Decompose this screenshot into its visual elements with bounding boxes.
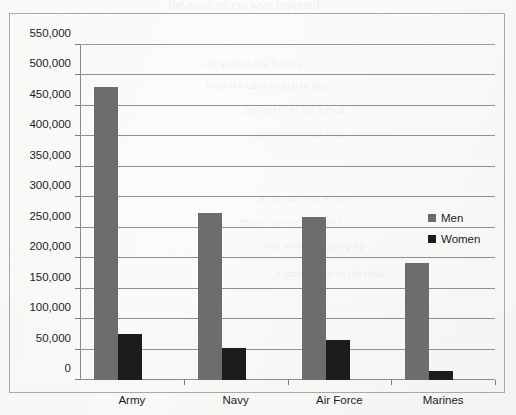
legend-item-men[interactable]: Men (428, 207, 480, 228)
y-axis-tick-label: 250,000 (29, 210, 71, 222)
bar-group (302, 45, 350, 380)
y-axis-tick-label: 350,000 (29, 149, 71, 161)
bar-navy-women (222, 348, 246, 380)
y-axis-tick-label: 0 (65, 362, 71, 374)
chart-legend: MenWomen (428, 207, 480, 249)
bar-marines-women (429, 371, 453, 380)
scanned-page: the most recent year reported to be seen… (0, 0, 516, 415)
x-axis-label-marines: Marines (423, 394, 464, 406)
x-axis-tick (184, 380, 185, 385)
legend-swatch-icon (428, 214, 436, 222)
y-axis-tick-label: 150,000 (29, 271, 71, 283)
bar-navy-men (198, 213, 222, 381)
y-axis-tick-label: 50,000 (36, 332, 71, 344)
x-axis-label-navy: Navy (223, 394, 249, 406)
bar-air-force-men (302, 217, 326, 380)
y-axis-tick-label: 550,000 (29, 27, 71, 39)
bar-army-women (118, 334, 142, 380)
bar-air-force-women (326, 340, 350, 380)
x-axis-tick (288, 380, 289, 385)
legend-label: Men (441, 212, 463, 224)
x-axis-tick (495, 380, 496, 385)
y-axis-tick-label: 450,000 (29, 88, 71, 100)
bar-marines-men (405, 263, 429, 380)
y-axis-tick-label: 100,000 (29, 301, 71, 313)
bleed-through-text-top: the most recent year reported (168, 0, 320, 13)
y-axis-tick-label: 500,000 (29, 57, 71, 69)
y-axis-tick-label: 300,000 (29, 179, 71, 191)
bar-group (198, 45, 246, 380)
bar-army-men (94, 87, 118, 380)
y-axis-tick-label: 400,000 (29, 118, 71, 130)
bar-group (94, 45, 142, 380)
legend-swatch-icon (428, 235, 436, 243)
legend-item-women[interactable]: Women (428, 228, 480, 249)
chart-frame: 050,000100,000150,000200,000250,000300,0… (9, 13, 505, 393)
y-axis-tick-label: 200,000 (29, 240, 71, 252)
x-axis-label-army: Army (118, 394, 145, 406)
x-axis-label-air-force: Air Force (316, 394, 363, 406)
x-axis-tick (391, 380, 392, 385)
legend-label: Women (441, 233, 480, 245)
